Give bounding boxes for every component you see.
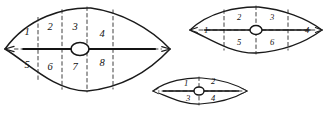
region-label-4: 4 xyxy=(99,28,105,39)
lens-cell-diagram: 123456781234561234 xyxy=(0,0,324,116)
left-tip xyxy=(153,88,158,93)
region-label-7: 7 xyxy=(72,61,78,72)
cell-outline-top xyxy=(5,8,170,49)
region-label-2: 2 xyxy=(47,21,53,32)
right-tip xyxy=(315,28,322,33)
figure-canvas: 123456781234561234 xyxy=(0,0,324,116)
cell-outline-bottom xyxy=(5,49,170,91)
region-label-3: 3 xyxy=(71,21,77,32)
region-label-6: 6 xyxy=(47,61,53,72)
region-label-1: 1 xyxy=(184,78,188,88)
region-label-5: 5 xyxy=(24,59,29,70)
region-label-8: 8 xyxy=(99,57,105,68)
region-label-3: 3 xyxy=(185,93,190,103)
nucleus xyxy=(194,87,204,95)
medium-lens-cell: 123456 xyxy=(190,6,322,54)
nucleus xyxy=(250,26,262,35)
right-tip xyxy=(242,89,247,94)
small-lens-cell: 1234 xyxy=(153,76,247,105)
region-label-3: 3 xyxy=(269,12,274,22)
region-label-1: 1 xyxy=(204,25,208,35)
region-label-5: 5 xyxy=(237,37,241,47)
region-label-1: 1 xyxy=(24,26,29,37)
nucleus xyxy=(71,43,89,56)
large-lens-cell: 12345678 xyxy=(5,7,170,92)
